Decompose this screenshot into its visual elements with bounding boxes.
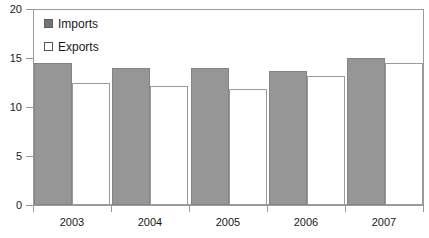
x-tick-label-2007: 2007 bbox=[345, 216, 423, 228]
bar-imports-2004 bbox=[112, 68, 150, 205]
bar-exports-2005 bbox=[229, 89, 267, 205]
y-tick-mark bbox=[26, 9, 33, 10]
x-axis-line bbox=[33, 205, 424, 206]
y-tick-mark bbox=[26, 205, 33, 206]
y-tick-mark bbox=[26, 156, 33, 157]
x-tick-label-2005: 2005 bbox=[189, 216, 267, 228]
legend-label-imports: Imports bbox=[58, 18, 98, 30]
x-tick-mark bbox=[189, 205, 190, 212]
bar-exports-2003 bbox=[72, 83, 110, 205]
y-tick-label: 10 bbox=[0, 102, 22, 113]
y-tick-label: 0 bbox=[0, 200, 22, 211]
x-tick-mark bbox=[33, 205, 34, 212]
bar-imports-2006 bbox=[269, 71, 307, 205]
legend-item-imports: Imports bbox=[44, 14, 99, 33]
bar-imports-2005 bbox=[191, 68, 229, 205]
x-tick-label-2003: 2003 bbox=[33, 216, 111, 228]
filled-gray-square-icon bbox=[44, 19, 53, 28]
bar-imports-2007 bbox=[347, 58, 385, 205]
y-tick-label: 20 bbox=[0, 4, 22, 15]
bar-exports-2004 bbox=[150, 86, 188, 205]
x-tick-label-2004: 2004 bbox=[111, 216, 189, 228]
bar-imports-2003 bbox=[34, 63, 72, 205]
x-tick-label-2006: 2006 bbox=[267, 216, 345, 228]
x-tick-mark bbox=[111, 205, 112, 212]
y-tick-mark bbox=[26, 107, 33, 108]
y-tick-label: 5 bbox=[0, 151, 22, 162]
bar-chart: 20 15 10 5 0 2003 2004 2005 2006 2007 Im… bbox=[0, 0, 429, 238]
bar-exports-2006 bbox=[307, 76, 345, 205]
x-tick-mark bbox=[345, 205, 346, 212]
y-tick-mark bbox=[26, 58, 33, 59]
outlined-white-square-icon bbox=[44, 42, 53, 51]
legend-label-exports: Exports bbox=[58, 41, 99, 53]
x-tick-mark bbox=[423, 205, 424, 212]
x-tick-mark bbox=[267, 205, 268, 212]
y-tick-label: 15 bbox=[0, 53, 22, 64]
legend-item-exports: Exports bbox=[44, 37, 99, 56]
chart-legend: Imports Exports bbox=[44, 14, 99, 60]
bar-exports-2007 bbox=[385, 63, 423, 205]
